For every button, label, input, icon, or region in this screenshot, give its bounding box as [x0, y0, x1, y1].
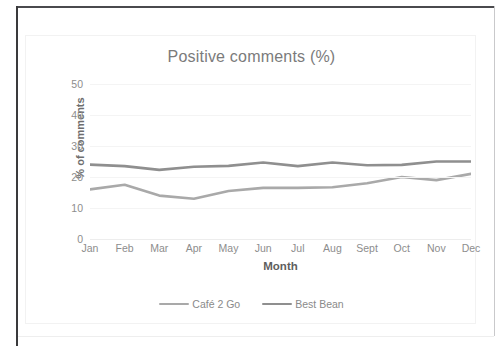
- line-swatch-best-bean: [262, 303, 292, 306]
- page-edge-right: [494, 6, 495, 336]
- gridline-y-20: [90, 177, 471, 178]
- chart-legend: Café 2 GoBest Bean: [26, 298, 477, 310]
- page-edge-left: [16, 6, 18, 346]
- series-line-best-bean: [90, 162, 471, 170]
- x-axis-title: Month: [90, 260, 471, 272]
- gridline-y-30: [90, 146, 471, 147]
- chart-container: Positive comments (%) % of comments Mont…: [25, 35, 476, 324]
- series-lines: [90, 84, 471, 239]
- gridline-y-0: [90, 239, 471, 240]
- y-tick-label: 10: [55, 203, 83, 214]
- chart-title: Positive comments (%): [26, 48, 477, 66]
- legend-item[interactable]: Best Bean: [262, 298, 343, 310]
- gridline-y-10: [90, 208, 471, 209]
- legend-label: Best Bean: [295, 298, 343, 310]
- x-tick-label: Dec: [451, 243, 491, 254]
- line-swatch-cafe-2-go: [159, 303, 189, 306]
- page-edge-top: [16, 6, 495, 8]
- plot-area: [90, 84, 471, 239]
- y-tick-label: 30: [55, 141, 83, 152]
- legend-item[interactable]: Café 2 Go: [159, 298, 240, 310]
- gridline-y-40: [90, 115, 471, 116]
- gridline-y-50: [90, 84, 471, 85]
- y-tick-label: 50: [55, 79, 83, 90]
- legend-label: Café 2 Go: [192, 298, 240, 310]
- page-edge-bottom: [18, 336, 494, 337]
- y-tick-label: 40: [55, 110, 83, 121]
- y-tick-label: 20: [55, 172, 83, 183]
- scanned-page-frame: Positive comments (%) % of comments Mont…: [0, 0, 503, 346]
